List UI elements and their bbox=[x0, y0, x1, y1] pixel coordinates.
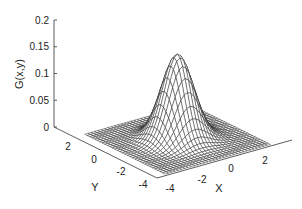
x-tick-label: -2 bbox=[198, 174, 207, 185]
z-tick-label: 0.05 bbox=[30, 95, 50, 106]
z-axis-ticks: 00.050.10.150.2 bbox=[30, 15, 57, 133]
x-tick-label: -4 bbox=[166, 183, 175, 194]
y-tick-label: 2 bbox=[65, 141, 71, 152]
z-tick-label: 0.2 bbox=[35, 15, 49, 26]
gaussian-surface-plot: 00.050.10.150.2 -4-202 -4-202 G(x,y) Y X bbox=[0, 0, 302, 209]
z-tick-label: 0.15 bbox=[30, 41, 50, 52]
z-axis-label: G(x,y) bbox=[13, 59, 25, 89]
y-tick-label: 0 bbox=[91, 154, 97, 165]
x-axis-label: X bbox=[215, 182, 223, 194]
y-tick-label: -2 bbox=[117, 166, 126, 177]
z-tick-label: 0.1 bbox=[35, 68, 49, 79]
x-tick-label: 2 bbox=[262, 155, 268, 166]
y-tick-label: -4 bbox=[139, 179, 148, 190]
y-axis-label: Y bbox=[91, 181, 99, 193]
z-tick-label: 0 bbox=[43, 122, 49, 133]
x-tick-label: 0 bbox=[228, 163, 234, 174]
